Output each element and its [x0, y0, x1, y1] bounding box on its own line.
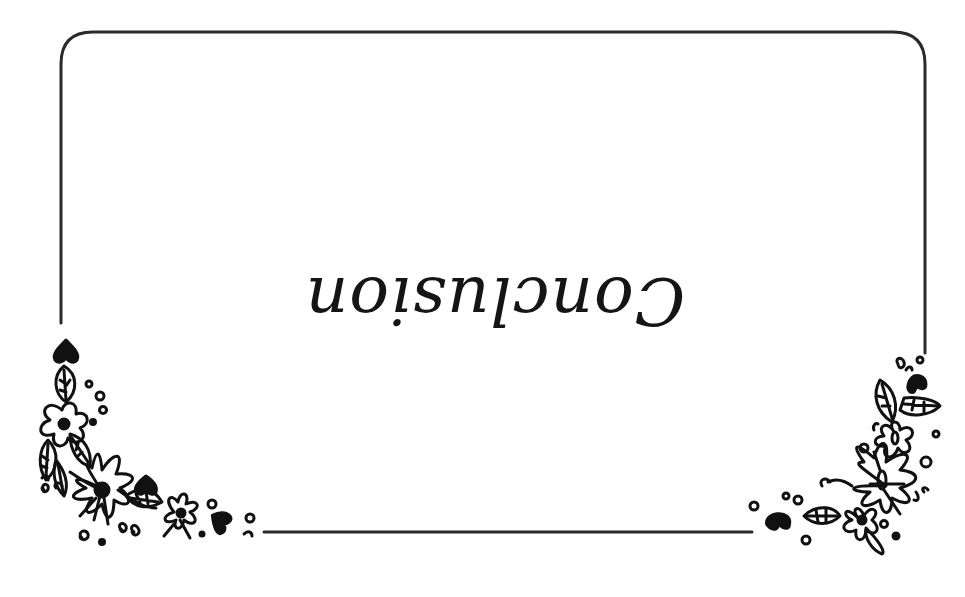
- title-container: Conclusion: [300, 250, 690, 350]
- slide-title: Conclusion: [305, 267, 686, 333]
- floral-corner-bottom-left-icon: [30, 320, 270, 560]
- floral-corner-bottom-right-icon: [740, 340, 965, 560]
- slide-card: Conclusion: [0, 0, 965, 597]
